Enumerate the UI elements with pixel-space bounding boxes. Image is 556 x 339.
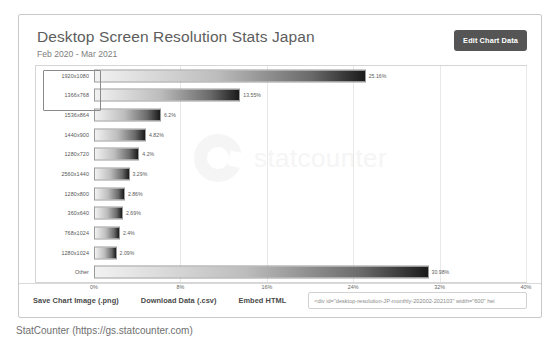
bar-category-label[interactable]: 1536x864: [36, 112, 94, 118]
table-row[interactable]: 1440x9004.82%: [36, 125, 526, 145]
bar[interactable]: [94, 109, 161, 122]
bar-value-label: 3.29%: [130, 171, 148, 177]
bar-value-label: 2.4%: [120, 230, 135, 236]
save-chart-image-link[interactable]: Save Chart Image (.png): [33, 296, 119, 305]
bar-category-label[interactable]: 1440x900: [36, 132, 94, 138]
bar-value-label: 2.69%: [123, 210, 141, 216]
bar-category-label[interactable]: 360x640: [36, 210, 94, 216]
bar-track: 3.29%: [94, 164, 526, 184]
chart-card: Desktop Screen Resolution Stats Japan Fe…: [18, 14, 542, 318]
bar-track: 2.09%: [94, 243, 526, 263]
bar-category-label[interactable]: 1280x1024: [36, 250, 94, 256]
bar-track: 2.86%: [94, 184, 526, 204]
bar-track: 2.4%: [94, 223, 526, 243]
bar-track: 25.16%: [94, 66, 526, 86]
bar-value-label: 6.2%: [161, 112, 176, 118]
table-row[interactable]: 1280x10242.09%: [36, 243, 526, 263]
bar-track: 13.55%: [94, 86, 526, 106]
table-row[interactable]: 360x6402.69%: [36, 203, 526, 223]
bar-value-label: 4.2%: [139, 151, 154, 157]
table-row[interactable]: Other30.98%: [36, 262, 526, 282]
bar[interactable]: [94, 128, 146, 141]
bar-track: 2.69%: [94, 203, 526, 223]
bar[interactable]: [94, 167, 130, 180]
table-row[interactable]: 1280x8002.86%: [36, 184, 526, 204]
embed-html-input[interactable]: [308, 292, 527, 309]
bar-rows-container: 1920x108025.16%1366x76813.55%1536x8646.2…: [36, 66, 526, 282]
bar-track: 4.82%: [94, 125, 526, 145]
bar-track: 30.98%: [94, 262, 526, 282]
bar-category-label[interactable]: 1280x800: [36, 191, 94, 197]
bar-value-label: 25.16%: [366, 73, 387, 79]
download-data-link[interactable]: Download Data (.csv): [141, 296, 217, 305]
bar-category-label[interactable]: 768x1024: [36, 230, 94, 236]
bar[interactable]: [94, 207, 123, 220]
table-row[interactable]: 2560x14403.29%: [36, 164, 526, 184]
chart-header: Desktop Screen Resolution Stats Japan Fe…: [37, 28, 527, 68]
table-row[interactable]: 1536x8646.2%: [36, 105, 526, 125]
table-row[interactable]: 1366x76813.55%: [36, 86, 526, 106]
date-range-subtitle: Feb 2020 - Mar 2021: [37, 49, 527, 59]
bar-track: 6.2%: [94, 105, 526, 125]
chart-plot-area: statcounter 1920x108025.16%1366x76813.55…: [35, 65, 527, 283]
bar-value-label: 2.09%: [117, 250, 135, 256]
bar-value-label: 2.86%: [125, 191, 143, 197]
bar[interactable]: [94, 266, 429, 279]
gridline: [526, 66, 527, 282]
screenshot-root: Desktop Screen Resolution Stats Japan Fe…: [0, 0, 556, 339]
table-row[interactable]: 1920x108025.16%: [36, 66, 526, 86]
bar-value-label: 30.98%: [429, 269, 450, 275]
source-caption: StatCounter (https://gs.statcounter.com): [16, 325, 193, 339]
edit-chart-data-button[interactable]: Edit Chart Data: [454, 30, 527, 51]
bar-value-label: 13.55%: [240, 92, 261, 98]
bar[interactable]: [94, 187, 125, 200]
bar-value-label: 4.82%: [146, 132, 164, 138]
bar-category-label[interactable]: Other: [36, 269, 94, 275]
bar-category-label[interactable]: 2560x1440: [36, 171, 94, 177]
table-row[interactable]: 768x10242.4%: [36, 223, 526, 243]
bar[interactable]: [94, 89, 240, 102]
bar[interactable]: [94, 69, 366, 82]
bar[interactable]: [94, 226, 120, 239]
bar-category-label[interactable]: 1366x768: [36, 92, 94, 98]
table-row[interactable]: 1280x7204.2%: [36, 145, 526, 165]
chart-footer-toolbar: Save Chart Image (.png) Download Data (.…: [19, 283, 541, 317]
bar[interactable]: [94, 148, 139, 161]
bar-category-label[interactable]: 1920x1080: [36, 73, 94, 79]
embed-html-label: Embed HTML: [239, 296, 287, 305]
bar[interactable]: [94, 246, 117, 259]
bar-track: 4.2%: [94, 145, 526, 165]
bar-category-label[interactable]: 1280x720: [36, 151, 94, 157]
